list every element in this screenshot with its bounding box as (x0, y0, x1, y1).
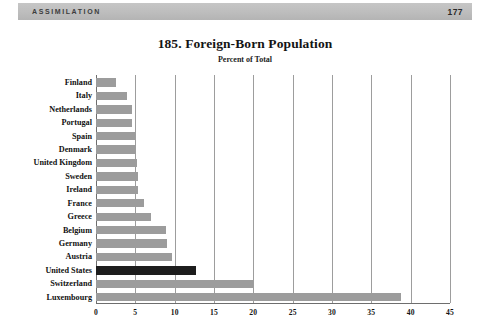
chart-title: 185. Foreign-Born Population (0, 36, 490, 52)
bar-united-states (96, 266, 196, 274)
page-number: 177 (448, 7, 463, 17)
x-tick-label-35: 35 (367, 308, 375, 317)
bar-luxembourg (96, 293, 401, 301)
bar-netherlands (96, 105, 132, 113)
x-tick-label-45: 45 (446, 308, 454, 317)
x-tick-label-15: 15 (210, 308, 218, 317)
bar-row: Luxembourg (96, 290, 450, 305)
bar-finland (96, 78, 116, 86)
bar-denmark (96, 145, 136, 153)
category-label: Luxembourg (47, 290, 93, 305)
bar-belgium (96, 226, 166, 234)
gridline-45 (450, 75, 451, 303)
bar-greece (96, 213, 151, 221)
bar-switzerland (96, 280, 253, 288)
x-tick-label-5: 5 (133, 308, 137, 317)
x-tick-label-30: 30 (328, 308, 336, 317)
x-tick-label-40: 40 (407, 308, 415, 317)
bar-sweden (96, 172, 138, 180)
bar-germany (96, 239, 167, 247)
bars-container: FinlandItalyNetherlandsPortugalSpainDenm… (96, 75, 450, 303)
header-section-title: ASSIMILATION (32, 8, 101, 15)
bar-spain (96, 132, 135, 140)
running-header: ASSIMILATION 177 (18, 3, 472, 20)
x-tick-label-20: 20 (249, 308, 257, 317)
chart-plot-area: FinlandItalyNetherlandsPortugalSpainDenm… (0, 72, 490, 326)
bar-france (96, 199, 144, 207)
bar-ireland (96, 186, 138, 194)
bar-italy (96, 92, 127, 100)
x-tick-label-25: 25 (289, 308, 297, 317)
bar-united-kingdom (96, 159, 137, 167)
bar-austria (96, 253, 172, 261)
x-tick-label-0: 0 (94, 308, 98, 317)
chart-subtitle: Percent of Total (0, 55, 490, 64)
bar-portugal (96, 119, 132, 127)
x-tick-label-10: 10 (171, 308, 179, 317)
